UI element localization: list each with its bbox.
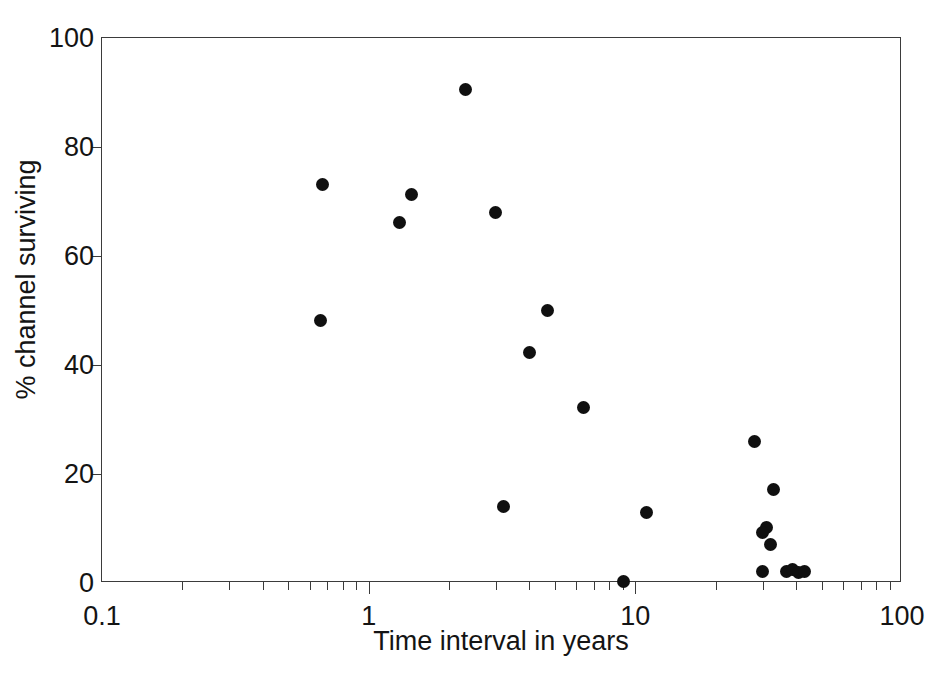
y-tick-label: 20	[64, 459, 94, 490]
x-tick-label: 100	[879, 601, 924, 632]
data-point	[640, 506, 653, 519]
scatter-plot-figure: % channel surviving Time interval in yea…	[0, 0, 939, 679]
x-tick-mark	[310, 581, 311, 590]
x-tick-mark	[263, 581, 264, 590]
data-point	[756, 526, 769, 539]
x-tick-mark	[763, 581, 764, 590]
x-tick-label: 10	[620, 601, 650, 632]
data-point	[316, 178, 329, 191]
data-point	[577, 401, 590, 414]
x-tick-mark	[594, 581, 595, 590]
data-point	[459, 83, 472, 96]
data-point	[541, 304, 554, 317]
x-tick-mark	[822, 581, 823, 590]
data-point	[764, 538, 777, 551]
x-tick-mark	[609, 581, 610, 590]
x-tick-mark	[796, 581, 797, 590]
y-axis-label: % channel surviving	[11, 0, 42, 560]
y-tick-label: 40	[64, 350, 94, 381]
x-tick-mark	[343, 581, 344, 590]
x-tick-mark	[716, 581, 717, 590]
x-tick-label: 0.1	[83, 601, 121, 632]
y-tick-label: 80	[64, 132, 94, 163]
y-tick-label: 100	[49, 23, 94, 54]
data-point	[748, 435, 761, 448]
data-point	[798, 565, 811, 578]
data-point	[314, 314, 327, 327]
x-tick-label: 1	[361, 601, 376, 632]
data-point	[497, 500, 510, 513]
x-tick-mark	[327, 581, 328, 590]
x-tick-mark	[229, 581, 230, 590]
x-tick-mark	[876, 581, 877, 590]
x-tick-mark	[576, 581, 577, 590]
x-tick-mark	[356, 581, 357, 590]
data-point	[489, 206, 502, 219]
x-tick-mark	[369, 581, 370, 594]
x-axis-label: Time interval in years	[101, 626, 901, 657]
x-tick-mark	[496, 581, 497, 590]
y-tick-label: 60	[64, 241, 94, 272]
x-tick-mark	[288, 581, 289, 590]
data-point	[405, 188, 418, 201]
x-tick-mark	[529, 581, 530, 590]
data-point	[617, 575, 630, 588]
plot-area: 020406080100 0.1110100	[101, 37, 901, 582]
data-point	[523, 346, 536, 359]
y-tick-label: 0	[79, 568, 94, 599]
x-tick-mark	[449, 581, 450, 590]
data-point	[756, 565, 769, 578]
x-tick-mark	[843, 581, 844, 590]
x-tick-mark	[555, 581, 556, 590]
x-tick-mark	[635, 581, 636, 594]
x-tick-mark	[182, 581, 183, 590]
x-tick-mark	[890, 581, 891, 590]
data-point	[393, 216, 406, 229]
data-point	[767, 483, 780, 496]
x-tick-mark	[861, 581, 862, 590]
